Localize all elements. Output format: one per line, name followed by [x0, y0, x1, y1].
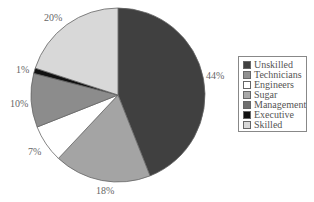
label-skilled: 20%: [44, 13, 62, 23]
legend: Unskilled Technicians Engineers Sugar Ma…: [238, 56, 307, 132]
label-executive: 1%: [16, 65, 29, 75]
swatch-icon: [243, 121, 251, 129]
swatch-icon: [243, 111, 251, 119]
swatch-icon: [243, 61, 251, 69]
label-sugar: 10%: [10, 99, 28, 109]
swatch-icon: [243, 81, 251, 89]
legend-item-skilled: Skilled: [243, 120, 306, 130]
swatch-icon: [243, 71, 251, 79]
label-technicians: 18%: [96, 186, 114, 196]
swatch-icon: [243, 101, 251, 109]
swatch-icon: [243, 91, 251, 99]
legend-label: Skilled: [254, 120, 282, 130]
label-unskilled: 44%: [206, 71, 224, 81]
label-engineers: 7%: [28, 147, 41, 157]
